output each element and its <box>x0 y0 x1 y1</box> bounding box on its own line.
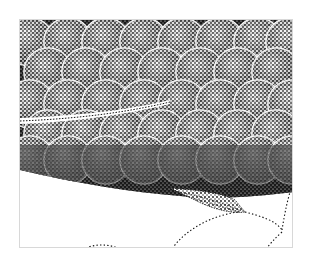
outline-contours <box>86 192 290 248</box>
fish-scales-illustration <box>20 20 293 248</box>
illustration-frame <box>19 19 293 248</box>
